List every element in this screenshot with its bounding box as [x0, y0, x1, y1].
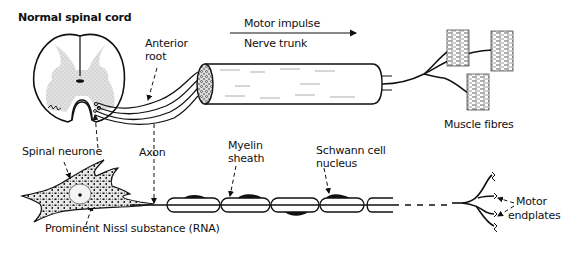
- label-anterior-root-line2: root: [145, 50, 166, 63]
- label-anterior-root-line1: Anterior: [145, 37, 188, 50]
- label-myelin-sheath-line1: Myelin: [228, 139, 263, 152]
- label-axon: Axon: [139, 146, 166, 159]
- label-motor-endplates-line2: endplates: [508, 209, 561, 222]
- spinal-cord-diagram: Normal spinal cord Anterior root Motor i…: [0, 0, 577, 253]
- spinal-cord-cross-section: [34, 34, 125, 122]
- muscle-fibres: [447, 30, 513, 110]
- motor-endplates: [393, 172, 497, 232]
- label-nerve-trunk: Nerve trunk: [244, 37, 307, 50]
- label-schwann-cell-line2: nucleus: [316, 157, 357, 170]
- label-motor-impulse: Motor impulse: [244, 17, 320, 30]
- nerve-trunk: [197, 64, 392, 104]
- myelinated-axon: [130, 194, 393, 216]
- spinal-neurone: [22, 160, 154, 222]
- label-spinal-neurone: Spinal neurone: [22, 145, 102, 158]
- label-myelin-sheath-line2: sheath: [228, 152, 264, 165]
- label-schwann-cell-line1: Schwann cell: [316, 144, 386, 157]
- label-muscle-fibres: Muscle fibres: [444, 118, 514, 131]
- label-nissl-substance: Prominent Nissl substance (RNA): [45, 222, 220, 235]
- diagram-title: Normal spinal cord: [18, 11, 132, 24]
- label-motor-endplates-line1: Motor: [516, 195, 547, 208]
